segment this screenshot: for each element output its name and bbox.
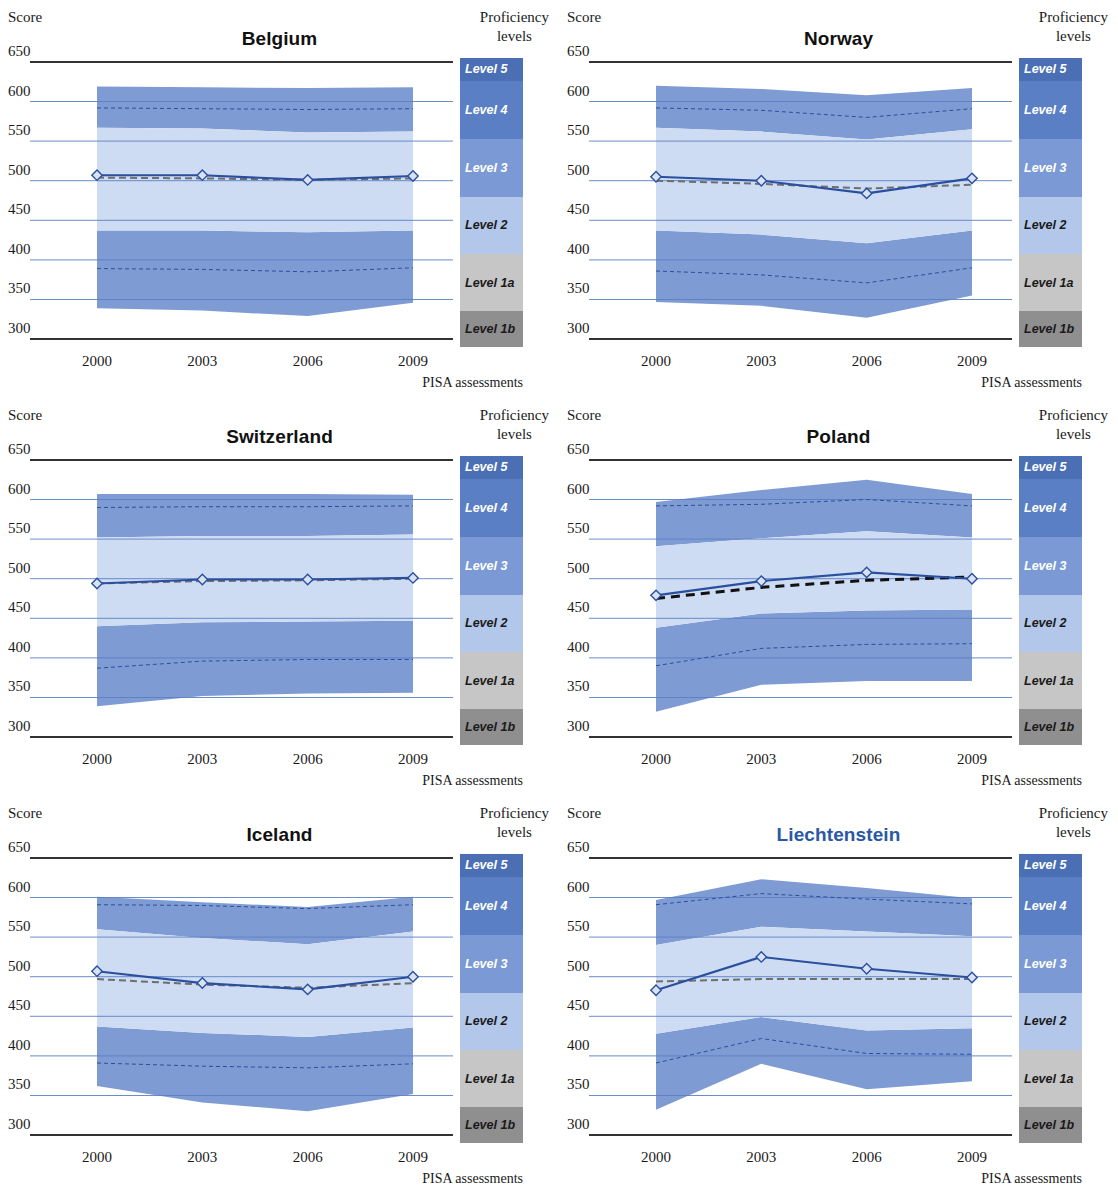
proficiency-level-label: Level 4 [1024, 501, 1066, 515]
chart-title: Iceland [0, 824, 559, 846]
proficiency-level-level-5: Level 5 [1019, 58, 1082, 81]
proficiency-level-label: Level 5 [1024, 460, 1066, 474]
y-tick-label: 350 [567, 1076, 590, 1093]
y-tick-label: 600 [567, 83, 590, 100]
score-axis-header: Score [567, 804, 601, 823]
x-tick-label: 2009 [957, 1149, 987, 1166]
x-axis-title: PISA assessments [422, 1171, 523, 1187]
proficiency-level-label: Level 3 [465, 559, 507, 573]
score-axis-header: Score [8, 8, 42, 27]
x-axis-title: PISA assessments [422, 773, 523, 789]
band-5-25 [97, 1027, 413, 1112]
x-axis-title: PISA assessments [981, 1171, 1082, 1187]
x-axis-title: PISA assessments [981, 375, 1082, 391]
y-tick-label: 550 [8, 122, 31, 139]
proficiency-levels-header: Proficiencylevels [1039, 8, 1108, 46]
y-tick-label: 350 [8, 1076, 31, 1093]
chart-panel-switzerland: ScoreProficiencylevelsSwitzerland6506005… [0, 398, 559, 796]
proficiency-level-label: Level 5 [465, 460, 507, 474]
proficiency-level-label: Level 5 [1024, 858, 1066, 872]
y-tick-label: 350 [567, 678, 590, 695]
y-tick-label: 400 [567, 1037, 590, 1054]
plot-area [589, 456, 1013, 745]
proficiency-level-label: Level 1a [465, 276, 514, 290]
proficiency-level-level-2: Level 2 [460, 197, 523, 255]
y-tick-label: 500 [567, 162, 590, 179]
y-tick-label: 650 [567, 441, 590, 458]
proficiency-level-level-2: Level 2 [1019, 595, 1082, 653]
proficiency-level-level-5: Level 5 [460, 58, 523, 81]
proficiency-level-level-4: Level 4 [460, 877, 523, 935]
x-tick-label: 2009 [398, 751, 428, 768]
proficiency-level-label: Level 4 [465, 899, 507, 913]
proficiency-level-level-3: Level 3 [1019, 537, 1082, 595]
y-tick-label: 300 [567, 718, 590, 735]
y-tick-label: 400 [567, 241, 590, 258]
proficiency-level-level-3: Level 3 [1019, 935, 1082, 993]
proficiency-level-label: Level 5 [465, 62, 507, 76]
x-tick-label: 2006 [293, 353, 323, 370]
proficiency-header-line1: Proficiency [1039, 406, 1108, 425]
x-tick-label: 2000 [641, 751, 671, 768]
proficiency-level-label: Level 3 [465, 957, 507, 971]
proficiency-level-level-4: Level 4 [1019, 877, 1082, 935]
proficiency-level-label: Level 1b [1024, 1118, 1074, 1132]
proficiency-level-label: Level 4 [1024, 103, 1066, 117]
x-tick-label: 2006 [293, 1149, 323, 1166]
proficiency-level-level-4: Level 4 [460, 81, 523, 139]
chart-panel-iceland: ScoreProficiencylevelsIceland65060055050… [0, 796, 559, 1195]
x-tick-label: 2003 [187, 1149, 217, 1166]
x-tick-label: 2006 [852, 751, 882, 768]
y-tick-label: 350 [8, 280, 31, 297]
chart-grid: ScoreProficiencylevelsBelgium65060055050… [0, 0, 1118, 1195]
proficiency-level-level-1a: Level 1a [1019, 652, 1082, 709]
score-axis-header: Score [567, 406, 601, 425]
proficiency-level-level-5: Level 5 [460, 854, 523, 877]
x-tick-label: 2009 [957, 353, 987, 370]
y-tick-label: 650 [8, 839, 31, 856]
y-tick-label: 400 [567, 639, 590, 656]
y-tick-label: 550 [567, 520, 590, 537]
y-tick-label: 300 [8, 320, 31, 337]
plot-area [589, 58, 1013, 347]
y-tick-label: 300 [8, 1116, 31, 1133]
proficiency-level-level-1a: Level 1a [1019, 254, 1082, 311]
score-axis-header: Score [8, 804, 42, 823]
x-tick-label: 2003 [746, 1149, 776, 1166]
band-5-25 [656, 610, 972, 712]
proficiency-level-level-3: Level 3 [460, 935, 523, 993]
proficiency-levels-header: Proficiencylevels [480, 804, 549, 842]
proficiency-level-level-2: Level 2 [1019, 993, 1082, 1051]
y-tick-label: 450 [567, 201, 590, 218]
y-tick-label: 300 [8, 718, 31, 735]
proficiency-level-label: Level 3 [1024, 559, 1066, 573]
y-tick-label: 550 [8, 520, 31, 537]
y-tick-label: 500 [567, 958, 590, 975]
y-tick-label: 550 [8, 918, 31, 935]
x-tick-label: 2000 [82, 353, 112, 370]
proficiency-level-label: Level 3 [465, 161, 507, 175]
proficiency-header-line1: Proficiency [1039, 804, 1108, 823]
proficiency-level-level-1b: Level 1b [460, 311, 523, 347]
proficiency-level-level-1a: Level 1a [460, 1050, 523, 1107]
y-tick-label: 350 [8, 678, 31, 695]
x-tick-label: 2003 [746, 353, 776, 370]
x-tick-label: 2006 [293, 751, 323, 768]
proficiency-level-level-3: Level 3 [1019, 139, 1082, 197]
x-tick-label: 2006 [852, 1149, 882, 1166]
chart-title: Norway [559, 28, 1118, 50]
x-tick-label: 2009 [398, 1149, 428, 1166]
proficiency-level-level-2: Level 2 [460, 595, 523, 653]
proficiency-levels-header: Proficiencylevels [1039, 804, 1108, 842]
x-tick-label: 2003 [187, 751, 217, 768]
proficiency-level-level-5: Level 5 [1019, 456, 1082, 479]
y-tick-label: 400 [8, 1037, 31, 1054]
proficiency-level-label: Level 5 [465, 858, 507, 872]
chart-title: Switzerland [0, 426, 559, 448]
proficiency-level-label: Level 1a [1024, 1072, 1073, 1086]
proficiency-level-level-1a: Level 1a [1019, 1050, 1082, 1107]
proficiency-level-level-1b: Level 1b [1019, 311, 1082, 347]
y-tick-label: 650 [567, 43, 590, 60]
proficiency-levels-strip: Level 5Level 4Level 3Level 2Level 1aLeve… [1019, 58, 1082, 347]
y-tick-label: 500 [567, 560, 590, 577]
